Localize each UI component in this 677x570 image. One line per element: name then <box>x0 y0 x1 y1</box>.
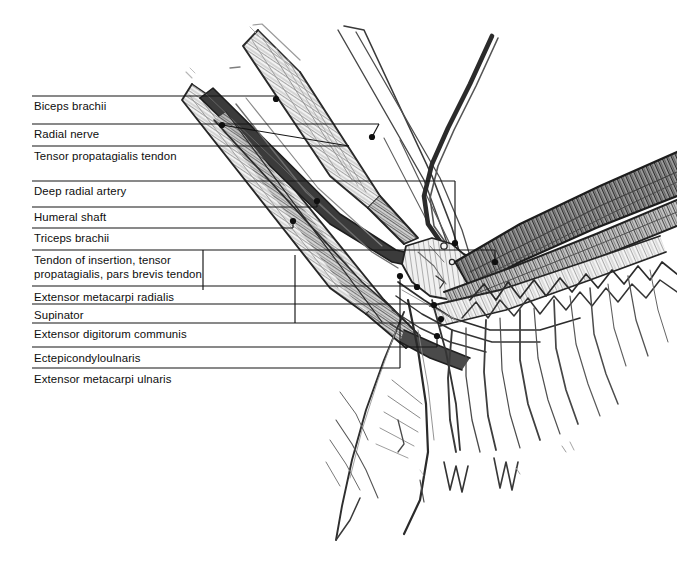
leader-dot-supinator <box>431 302 437 308</box>
leader-dot-tensor-propatagialis-tendon <box>219 122 225 128</box>
leader-dot-extensor-digitorum-communis <box>438 316 444 322</box>
label-extensor-digitorum-communis: Extensor digitorum communis <box>34 328 187 342</box>
label-extensor-metacarpi-ulnaris: Extensor metacarpi ulnaris <box>34 373 171 387</box>
leader-dot-humeral-shaft <box>314 198 320 204</box>
label-deep-radial-artery: Deep radial artery <box>34 185 126 199</box>
label-ectepicondyloulnaris: Ectepicondyloulnaris <box>34 352 140 366</box>
anatomical-figure: Biceps brachiiRadial nerveTensor propata… <box>0 0 677 570</box>
label-tendon-of-insertion: Tendon of insertion, tensor propatagiali… <box>34 254 202 281</box>
label-tensor-propatagialis-tendon: Tensor propatagialis tendon <box>34 150 177 164</box>
leader-dot-extensor-metacarpi-ulnaris <box>397 273 403 279</box>
leader-dot-triceps-brachii <box>290 218 296 224</box>
leader-dot-ectepicondyloulnaris <box>434 333 440 339</box>
label-supinator: Supinator <box>34 309 84 323</box>
label-leader-overlay <box>0 0 677 570</box>
leader-elbow-tensor-propatagialis-tendon <box>222 125 349 146</box>
leader-dot-tendon-of-insertion <box>492 259 498 265</box>
label-humeral-shaft: Humeral shaft <box>34 211 106 225</box>
leader-dot-radial-nerve <box>369 134 375 140</box>
label-radial-nerve: Radial nerve <box>34 128 99 142</box>
leader-dot-extensor-metacarpi-radialis <box>414 284 420 290</box>
label-extensor-metacarpi-radialis: Extensor metacarpi radialis <box>34 291 174 305</box>
leader-dot-biceps-brachii <box>273 96 279 102</box>
leader-dot-deep-radial-artery <box>452 240 458 246</box>
label-biceps-brachii: Biceps brachii <box>34 100 106 114</box>
label-triceps-brachii: Triceps brachii <box>34 232 109 246</box>
